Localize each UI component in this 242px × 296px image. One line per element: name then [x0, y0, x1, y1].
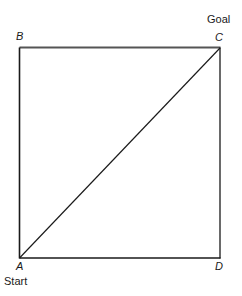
goal-annotation: Goal [207, 13, 230, 25]
vertex-label-b: B [16, 30, 23, 42]
start-annotation: Start [4, 275, 27, 287]
geometry-figure: B C A D Goal Start [0, 0, 242, 296]
vertex-label-a: A [16, 260, 23, 272]
square-diagram-svg [0, 0, 242, 296]
vertex-label-d: D [215, 260, 223, 272]
vertex-label-c: C [215, 31, 223, 43]
edge-ac-diagonal [20, 48, 221, 258]
